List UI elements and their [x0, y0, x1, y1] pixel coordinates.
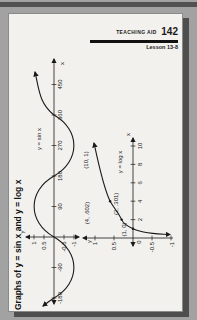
graphs-svg: -180 -90 90 180 270 360 450 1 0.5 -0.5 -…	[15, 49, 180, 319]
page-header: TEACHING AID 142 Lesson 13-8	[90, 21, 178, 50]
sine-curve-label: y = sin x	[36, 128, 42, 150]
log-y-tick-label: 0.5	[111, 241, 117, 250]
backdrop-top-stripe	[0, 2, 197, 7]
log-point-label: (1, 0)	[121, 222, 127, 236]
log-point-dot-2-301	[120, 218, 122, 220]
log-x-axis-label: x	[125, 133, 131, 136]
sine-y-tick-label: 0.5	[41, 241, 47, 250]
teaching-aid-kicker: TEACHING AID	[116, 29, 157, 35]
log-origin-label: 0	[136, 240, 142, 244]
log-point-dot-1-0	[132, 228, 134, 230]
sine-y-tick-label: -1	[71, 241, 77, 247]
log-curve-label: y = log x	[117, 151, 123, 174]
sine-x-tick-label: -180	[57, 291, 63, 304]
log-x-tick-label: 8	[137, 162, 143, 166]
log-x-tick-label: 2	[137, 217, 143, 221]
sine-x-tick-label: 270	[57, 140, 63, 151]
sine-x-tick-label: 90	[57, 203, 63, 210]
log-y-tick-label: 1	[92, 241, 98, 245]
log-y-axis-label: y	[86, 240, 92, 243]
header-line: TEACHING AID 142	[90, 21, 178, 39]
sine-y-tick-label: 1	[31, 241, 37, 245]
header-rule	[90, 40, 178, 43]
log-graph: 2 4 6 8 10 0 1 0.5 -0.5 -1 x y y = log x…	[83, 133, 175, 252]
sine-y-axis-label: y	[19, 231, 25, 234]
rotated-graphs-area: -180 -90 90 180 270 360 450 1 0.5 -0.5 -…	[15, 49, 180, 314]
log-x-tick-label: 4	[137, 199, 143, 203]
teaching-aid-page: TEACHING AID 142 Lesson 13-8 Graphs of y…	[8, 13, 183, 312]
log-y-tick-label: -1	[169, 241, 175, 247]
sine-x-axis-label: x	[59, 62, 65, 65]
log-point-label: (10, 1)	[83, 151, 89, 168]
log-curve	[94, 143, 170, 235]
sine-x-tick-label: 450	[57, 79, 63, 90]
log-point-dot-4-602	[109, 200, 111, 202]
log-y-tick-label: -0.5	[149, 241, 155, 252]
aid-number: 142	[161, 26, 178, 37]
sine-graph: -180 -90 90 180 270 360 450 1 0.5 -0.5 -…	[19, 59, 79, 306]
log-x-tick-label: 6	[137, 180, 143, 184]
log-point-label: (2, .301)	[113, 193, 119, 215]
log-point-label: (4, .602)	[84, 202, 90, 224]
log-x-tick-label: 10	[137, 142, 143, 149]
sine-x-tick-label: -90	[57, 263, 63, 272]
